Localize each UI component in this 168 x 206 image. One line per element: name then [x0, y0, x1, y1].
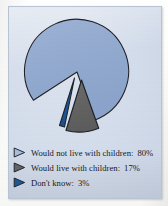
triangle-marker-icon [13, 177, 26, 188]
legend-value: 3% [78, 178, 89, 188]
legend-label: Would live with children: [31, 163, 120, 173]
legend: Would not live with children: 80% Would … [13, 145, 161, 190]
screenshot-root: Would not live with children: 80% Would … [0, 0, 168, 206]
legend-item-dont-know[interactable]: Don't know: 3% [13, 175, 161, 190]
triangle-marker-icon [13, 162, 26, 173]
triangle-marker-icon [13, 147, 26, 158]
legend-value: 80% [137, 148, 153, 158]
pie-chart [8, 6, 162, 144]
pie-chart-svg [8, 6, 162, 144]
legend-item-would-live-with-children[interactable]: Would live with children: 17% [13, 160, 161, 175]
legend-label: Don't know: [31, 178, 74, 188]
legend-item-would-not-live-with-children[interactable]: Would not live with children: 80% [13, 145, 161, 160]
legend-label: Would not live with children: [31, 148, 133, 158]
legend-value: 17% [124, 163, 140, 173]
